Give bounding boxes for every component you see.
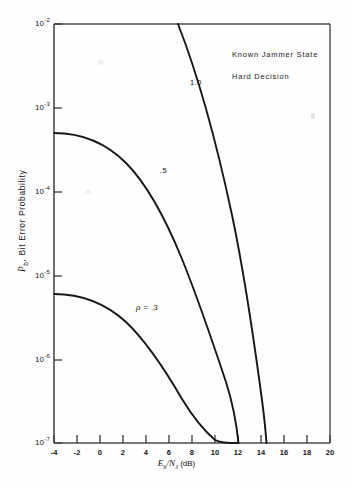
x-tick-label-20: 20 — [320, 448, 340, 457]
curve-label-0.5: .5 — [160, 166, 167, 175]
x-tick-label-12: 12 — [228, 448, 248, 457]
rho-value: = .3 — [143, 303, 158, 312]
scan-artifact-2 — [98, 60, 103, 65]
y-axis-title: Pb, Bit Error Probability — [17, 126, 29, 316]
y-tick-marks — [54, 24, 62, 443]
rho-symbol: ρ — [136, 302, 141, 312]
scan-artifact-1 — [311, 113, 315, 119]
x-tick-label-14: 14 — [251, 448, 271, 457]
annotation-known-jammer-state: Known Jammer State — [232, 50, 318, 59]
x-tick-label--2: -2 — [67, 448, 87, 457]
x-axis-title: Eb/NJ (dB) — [0, 458, 353, 470]
y-axis-title-sub-b: b — [22, 261, 29, 265]
x-axis-title-slash-N: /N — [166, 458, 175, 468]
x-tick-label-16: 16 — [274, 448, 294, 457]
y-tick-label-1e-7: 10-7 — [20, 436, 50, 447]
curve-label-rho-0.3: ρ = .3 — [136, 302, 158, 312]
curve-0.5 — [54, 133, 239, 443]
x-tick-label-6: 6 — [159, 448, 179, 457]
x-tick-label-8: 8 — [182, 448, 202, 457]
figure-canvas: 10-2 10-3 10-4 10-5 10-6 10-7 -4 -2 0 2 … — [0, 0, 353, 487]
curve-label-1.0: 1.0 — [190, 78, 202, 87]
y-axis-title-rest: , Bit Error Probability — [17, 170, 27, 262]
y-axis-title-P: P — [17, 266, 27, 272]
x-tick-label-2: 2 — [113, 448, 133, 457]
plot-area — [0, 0, 353, 487]
x-axis-title-sub-J: J — [175, 463, 178, 470]
annotation-hard-decision: Hard Decision — [232, 72, 290, 81]
scan-artifact-3 — [86, 189, 91, 194]
x-tick-label-18: 18 — [297, 448, 317, 457]
x-tick-label-10: 10 — [205, 448, 225, 457]
y-tick-label-1e-3: 10-3 — [20, 101, 50, 112]
curve-rho-0.3 — [54, 294, 238, 443]
x-axis-title-unit: (dB) — [180, 459, 195, 468]
x-tick-label--4: -4 — [44, 448, 64, 457]
y-tick-label-1e-2: 10-2 — [20, 17, 50, 28]
y-tick-label-1e-6: 10-6 — [20, 353, 50, 364]
x-tick-label-0: 0 — [90, 448, 110, 457]
x-tick-marks — [54, 435, 330, 443]
x-tick-label-4: 4 — [136, 448, 156, 457]
scan-artifact-4 — [43, 275, 48, 280]
